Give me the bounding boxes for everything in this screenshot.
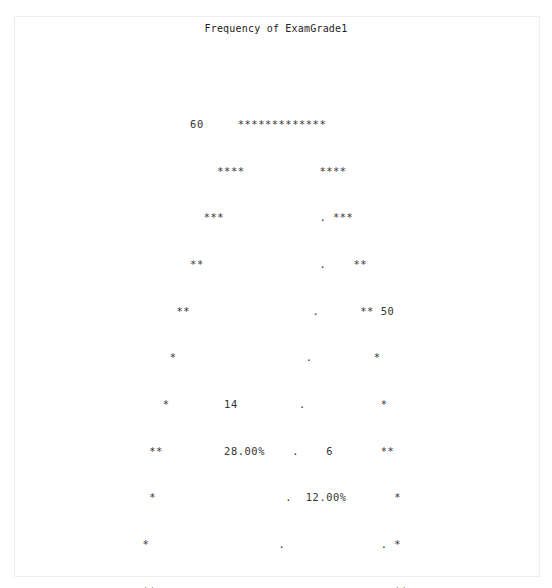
pie-row: ** . ** [88,257,496,273]
pie-row: ** . ** 50 [88,304,496,320]
pie-row: 60 ************* [88,117,496,133]
chart-title: Frequency of ExamGrade1 [0,23,552,34]
pie-row: ** . . . . ** [88,584,496,588]
pie-row: *** . *** [88,210,496,226]
pie-row: ** 28.00% . 6 ** [88,444,496,460]
pie-row: * . 12.00% * [88,490,496,506]
pie-row: * . * [88,350,496,366]
pie-row: * . . * [88,537,496,553]
pie-row: **** **** [88,164,496,180]
ascii-pie-chart: 60 ************* **** **** *** . *** ** … [88,86,496,588]
pie-row: * 14 . * [88,397,496,413]
